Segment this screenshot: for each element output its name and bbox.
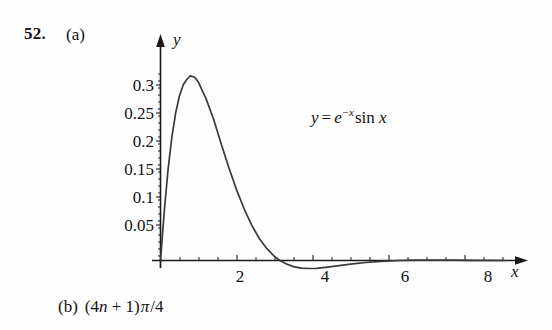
part-b-open-paren: (4: [85, 297, 99, 316]
x-axis-tick-labels: 2 4 6 8: [0, 0, 552, 330]
x-tick-label: 6: [385, 268, 425, 285]
equation-lhs: y: [311, 108, 319, 127]
equation-equals: =: [319, 108, 335, 127]
equation-exponent: −x: [342, 106, 354, 118]
x-axis-name: x: [511, 262, 519, 282]
equation-base: e: [334, 108, 342, 127]
part-b-answer: (4n + 1)π/4: [85, 297, 164, 316]
x-tick-label: 2: [220, 268, 260, 285]
equation-trig-argument: x: [379, 108, 387, 127]
part-b-plus-one: + 1): [108, 297, 140, 316]
figure-container: 52. (a): [0, 0, 552, 330]
x-tick-label: 4: [305, 268, 345, 285]
equation-trig: sin: [354, 108, 375, 127]
part-b-pi-symbol: π: [140, 297, 151, 316]
y-axis-name: y: [173, 30, 181, 50]
x-tick-label: 8: [468, 268, 508, 285]
curve-equation-annotation: y=e−xsin x: [311, 108, 387, 128]
part-b-variable-n: n: [99, 297, 108, 316]
part-b-label: (b): [58, 297, 78, 316]
part-b-over-four: /4: [150, 297, 163, 316]
part-b-row: (b)(4n + 1)π/4: [58, 297, 164, 317]
